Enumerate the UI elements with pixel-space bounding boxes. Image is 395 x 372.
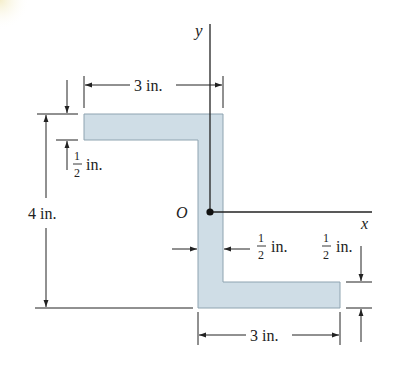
height-label: 4 in. xyxy=(28,205,56,222)
corner-glow xyxy=(0,0,30,30)
z-section-diagram: y x O 3 in. 1 2 in. 4 in. 1 2 in. 1 2 in… xyxy=(0,0,395,372)
y-axis-label: y xyxy=(193,21,203,40)
bottom-thickness-label: 1 2 in. xyxy=(322,231,352,262)
svg-text:1: 1 xyxy=(74,149,80,163)
x-axis-label: x xyxy=(360,215,368,232)
top-thickness-label: 1 2 in. xyxy=(73,149,102,180)
origin-label: O xyxy=(176,204,188,221)
svg-text:2: 2 xyxy=(74,166,80,180)
web-thickness-label: 1 2 in. xyxy=(257,231,287,262)
origin-point xyxy=(206,208,213,215)
bottom-width-label: 3 in. xyxy=(250,327,278,344)
svg-text:1: 1 xyxy=(323,231,329,245)
svg-text:1: 1 xyxy=(258,231,264,245)
svg-text:2: 2 xyxy=(258,248,264,262)
svg-text:in.: in. xyxy=(86,156,102,173)
svg-text:in.: in. xyxy=(271,238,287,255)
svg-text:2: 2 xyxy=(323,248,329,262)
top-width-label: 3 in. xyxy=(134,77,162,94)
svg-text:in.: in. xyxy=(336,238,352,255)
